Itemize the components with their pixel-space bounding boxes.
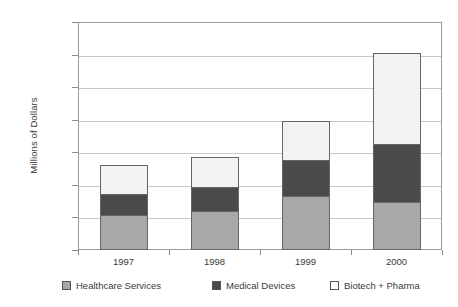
bar-segment[interactable] [100,165,148,194]
x-tick-mark [78,250,79,255]
x-tick-label: 1998 [185,256,245,267]
bar-segment[interactable] [373,202,421,250]
x-tick-label: 1999 [276,256,336,267]
legend-swatch [212,281,221,290]
bar-stack [100,165,148,250]
bar-segment[interactable] [191,157,239,187]
bar-segment[interactable] [191,211,239,250]
bar-segment[interactable] [282,121,330,160]
stacked-bar-chart: Millions of Dollars 01000200030004000500… [0,0,458,307]
bar-group[interactable] [100,22,148,250]
legend-item[interactable]: Medical Devices [212,280,295,291]
bar-group[interactable] [282,22,330,250]
bar-segment[interactable] [100,194,148,215]
bar-segment[interactable] [282,196,330,250]
bar-group[interactable] [373,22,421,250]
legend-item[interactable]: Biotech + Pharma [330,280,420,291]
legend-label: Biotech + Pharma [344,280,420,291]
bar-segment[interactable] [191,187,239,211]
legend-item[interactable]: Healthcare Services [62,280,161,291]
bars-layer [78,22,442,250]
bar-stack [191,157,239,250]
legend-label: Medical Devices [226,280,295,291]
bar-stack [373,53,421,250]
bar-segment[interactable] [373,144,421,202]
legend-swatch [62,281,71,290]
x-tick-mark [351,250,352,255]
bar-segment[interactable] [282,160,330,196]
bar-segment[interactable] [373,53,421,144]
x-tick-label: 2000 [367,256,427,267]
bar-group[interactable] [191,22,239,250]
x-tick-label: 1997 [94,256,154,267]
bar-stack [282,121,330,250]
x-tick-mark [169,250,170,255]
x-tick-mark [442,250,443,255]
legend-label: Healthcare Services [76,280,161,291]
chart-legend: Healthcare ServicesMedical DevicesBiotec… [0,280,458,298]
bar-segment[interactable] [100,215,148,250]
legend-swatch [330,281,339,290]
x-tick-mark [260,250,261,255]
y-axis-title: Millions of Dollars [28,56,39,216]
